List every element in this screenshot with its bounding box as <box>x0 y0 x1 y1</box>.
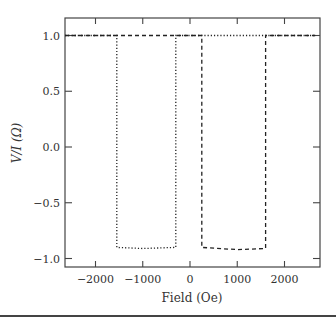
y-axis-label-text: V/I (Ω) <box>10 122 24 163</box>
axis-tick-labels: −2000−10000100020001.00.50.0−0.5−1.0 <box>33 30 298 287</box>
y-tick-label: −1.0 <box>33 253 60 266</box>
x-tick-label: 2000 <box>271 273 299 286</box>
y-axis-label: V/I (Ω) <box>10 122 24 163</box>
dashed-series-line <box>65 36 315 250</box>
x-tick-label: −2000 <box>77 273 114 286</box>
dotted-series-line <box>65 36 315 249</box>
y-tick-label: 0.5 <box>43 85 61 98</box>
hysteresis-chart: −2000−10000100020001.00.50.0−0.5−1.0 Fie… <box>0 0 336 318</box>
data-series <box>65 36 315 250</box>
x-tick-label: 1000 <box>223 273 251 286</box>
x-axis-label: Field (Oe) <box>162 291 223 305</box>
x-tick-label: −1000 <box>124 273 161 286</box>
plot-frame <box>65 18 320 267</box>
y-tick-label: 1.0 <box>43 30 61 43</box>
x-tick-label: 0 <box>187 273 194 286</box>
y-tick-label: −0.5 <box>33 197 60 210</box>
axis-ticks <box>65 18 320 267</box>
y-tick-label: 0.0 <box>43 141 61 154</box>
bottom-rule <box>0 315 336 317</box>
